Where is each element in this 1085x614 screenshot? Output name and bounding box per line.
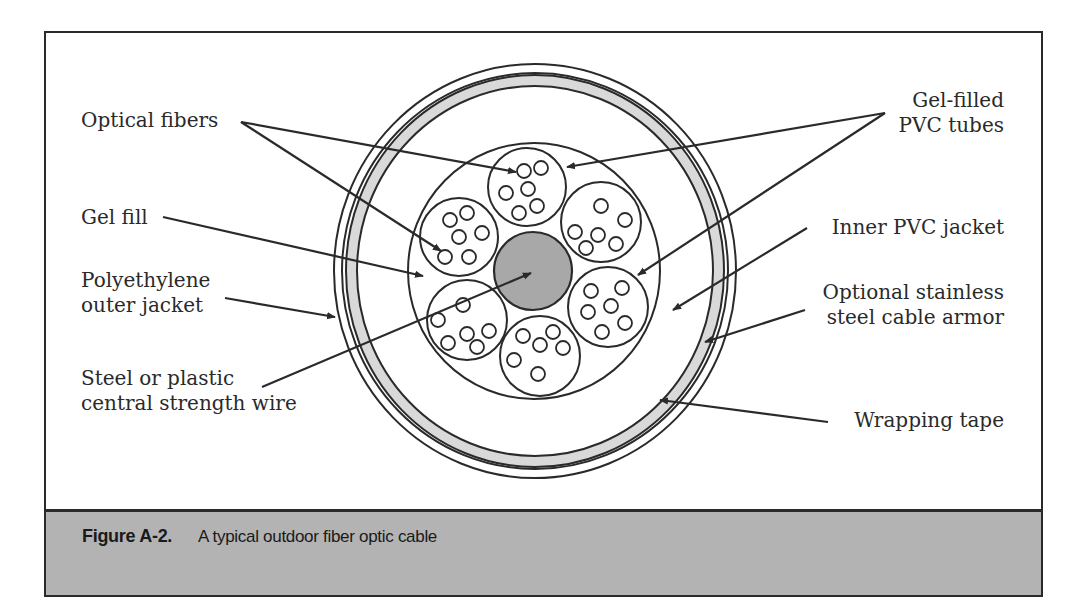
label-steel-line2: central strength wire (81, 391, 297, 416)
label-steel-line1: Steel or plastic (81, 366, 297, 391)
label-polyethylene-line2: outer jacket (81, 293, 210, 318)
arrow-inner-pvc-jacket (673, 228, 807, 310)
pvc-tube-lower-right (568, 267, 648, 347)
label-central-strength-wire: Steel or plastic central strength wire (81, 366, 297, 416)
label-gel-filled-line1: Gel-filled (899, 88, 1004, 113)
figure-caption-text: A typical outdoor fiber optic cable (198, 527, 437, 546)
arrow-gel-filled-tubes-top (567, 113, 885, 167)
arrow-optical-fibers-left (241, 122, 441, 251)
label-inner-pvc-jacket: Inner PVC jacket (832, 215, 1004, 240)
arrow-wrapping-tape (660, 400, 828, 422)
label-polyethylene-line1: Polyethylene (81, 268, 210, 293)
figure-number: Figure A-2. (82, 526, 172, 546)
label-gel-fill: Gel fill (81, 205, 148, 230)
label-armor-line1: Optional stainless (823, 280, 1005, 305)
label-armor-line2: steel cable armor (823, 305, 1005, 330)
pvc-tube-lower-left (427, 280, 507, 360)
central-strength-wire (494, 232, 572, 310)
label-steel-cable-armor: Optional stainless steel cable armor (823, 280, 1005, 330)
arrow-gel-filled-tubes-right (638, 113, 885, 275)
pvc-tube-upper-left (420, 198, 498, 276)
label-optical-fibers: Optical fibers (81, 108, 218, 133)
caption-band: Figure A-2.A typical outdoor fiber optic… (44, 509, 1043, 597)
label-gel-filled-line2: PVC tubes (899, 113, 1004, 138)
label-wrapping-tape: Wrapping tape (854, 408, 1004, 433)
label-polyethylene-outer-jacket: Polyethylene outer jacket (81, 268, 210, 318)
label-gel-filled-pvc-tubes: Gel-filled PVC tubes (899, 88, 1004, 138)
pvc-tube-bottom (500, 316, 580, 396)
pvc-tube-top (488, 148, 566, 226)
arrow-polyethylene-jacket (225, 298, 335, 317)
figure-caption: Figure A-2.A typical outdoor fiber optic… (82, 526, 437, 547)
pvc-tube-upper-right (561, 182, 641, 262)
